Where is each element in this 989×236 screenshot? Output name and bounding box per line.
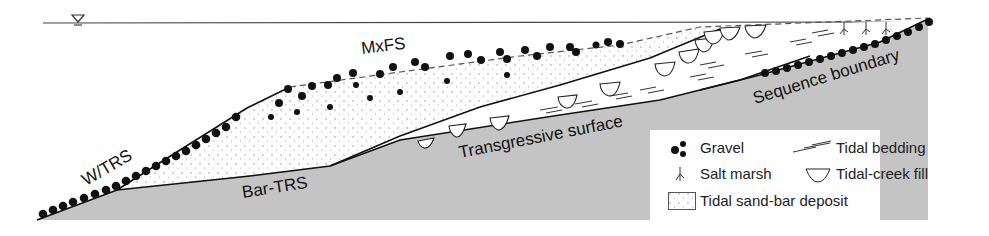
- tidal-creek-fill-icon: [805, 167, 831, 183]
- legend-label-tidal-bedding: Tidal bedding: [836, 139, 926, 156]
- legend-label-salt-marsh: Salt marsh: [700, 165, 772, 182]
- legend: Gravel Tidal bedding Salt marsh Tidal-cr…: [650, 130, 880, 225]
- legend-label-gravel: Gravel: [700, 139, 744, 156]
- salt-marsh-icon: [674, 166, 686, 182]
- label-mxfs: MxFS: [360, 34, 406, 58]
- gravel-icon: [670, 140, 688, 158]
- tidal-sand-bar-icon: [668, 192, 696, 210]
- legend-label-tidal-sand-bar: Tidal sand-bar deposit: [700, 192, 848, 209]
- legend-label-tidal-creek-fill: Tidal-creek fill: [836, 165, 928, 182]
- tidal-bedding-icon: [792, 140, 832, 154]
